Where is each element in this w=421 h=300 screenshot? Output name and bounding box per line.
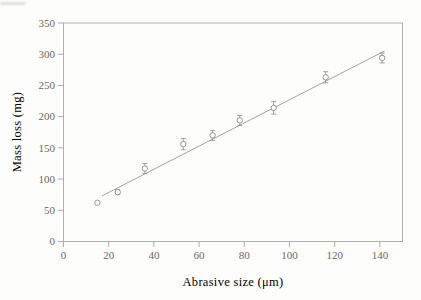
x-tick-label: 120 [326, 249, 343, 261]
y-tick-label: 300 [39, 48, 56, 60]
data-point [115, 189, 120, 194]
data-point [181, 141, 186, 146]
y-tick-label: 350 [39, 17, 56, 29]
x-axis-title: Abrasive size (μm) [183, 275, 284, 289]
data-point [271, 105, 276, 110]
x-tick-label: 20 [103, 249, 115, 261]
data-point [95, 200, 100, 205]
data-point [142, 166, 147, 171]
plot-frame-group [64, 23, 403, 242]
y-tick-label: 100 [39, 173, 56, 185]
chart-figure: 020406080100120140050100150200250300350 … [0, 0, 421, 300]
x-tick-label: 140 [372, 249, 389, 261]
x-tick-label: 0 [61, 249, 67, 261]
x-tick-label: 60 [194, 249, 206, 261]
scan-artifact [0, 2, 26, 5]
data-point [323, 75, 328, 80]
y-tick-label: 150 [39, 142, 56, 154]
x-tick-label: 40 [148, 249, 160, 261]
data-point [379, 55, 384, 60]
data-point [237, 118, 242, 123]
x-tick-label: 80 [239, 249, 251, 261]
y-tick-label: 50 [44, 204, 56, 216]
y-tick-label: 250 [39, 79, 56, 91]
fit-line [102, 51, 385, 196]
data-series-group [95, 53, 385, 206]
y-axis-title: Mass loss (mg) [10, 92, 24, 173]
scatter-plot: 020406080100120140050100150200250300350 … [0, 0, 421, 300]
plot-frame [64, 23, 403, 242]
x-tick-label: 100 [281, 249, 298, 261]
fit-line-group [102, 51, 385, 196]
y-tick-label: 200 [39, 110, 56, 122]
y-tick-label: 0 [50, 235, 56, 247]
data-point [210, 133, 215, 138]
